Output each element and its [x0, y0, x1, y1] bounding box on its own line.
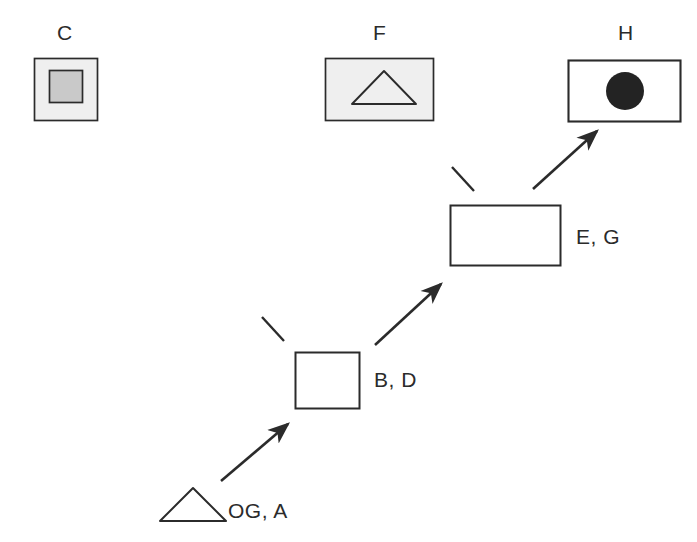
chain-shape-EG: [451, 206, 561, 266]
chain-shape-OGA: [160, 488, 226, 521]
reference-label-F: F: [373, 22, 386, 43]
eg-rectangle: [451, 206, 561, 266]
oga-triangle: [160, 488, 226, 521]
c-inner-square: [50, 71, 83, 103]
arrow-bd-to-eg: [375, 284, 441, 345]
chain-shape-BD: [296, 353, 360, 409]
diagram-canvas: C F H E, G B, D OG, A: [0, 0, 697, 542]
chain-label-BD: B, D: [374, 369, 417, 390]
diagram-graphics: [0, 0, 697, 542]
f-outer-rectangle: [326, 59, 434, 121]
reference-label-H: H: [618, 22, 634, 43]
arrow-eg-to-h: [533, 131, 597, 189]
arrow-oga-to-bd: [221, 424, 288, 481]
reference-shape-F: [326, 59, 434, 121]
tick-eg: [452, 167, 474, 191]
chain-label-OGA: OG, A: [228, 500, 288, 521]
h-inner-filled-circle: [606, 72, 644, 110]
reference-label-C: C: [57, 22, 73, 43]
bd-square: [296, 353, 360, 409]
reference-shape-H: [569, 61, 681, 122]
chain-label-EG: E, G: [576, 226, 620, 247]
tick-bd: [262, 317, 284, 341]
reference-shape-C: [35, 59, 98, 121]
